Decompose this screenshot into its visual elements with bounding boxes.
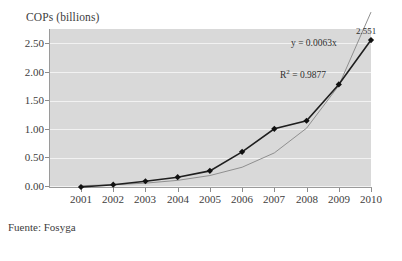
y-tick-label: 2.50 <box>10 37 44 49</box>
x-tick-mark <box>339 188 340 192</box>
x-tick-label: 2010 <box>360 193 382 205</box>
trendline-equation-label: y = 0.0063x <box>291 38 337 48</box>
plot-area <box>49 29 371 187</box>
y-tick-label: 2.00 <box>10 66 44 78</box>
chart-figure: COPs (billions) 2.50 2.00 1.50 1.00 0.50… <box>0 0 402 261</box>
x-axis-tick-labels: 2001 2002 2003 2004 2005 2006 2007 2008 … <box>0 193 402 211</box>
source-note: Fuente: Fosyga <box>8 221 76 233</box>
y-tick-label: 1.50 <box>10 94 44 106</box>
x-tick-label: 2004 <box>167 193 189 205</box>
x-tick-mark <box>178 188 179 192</box>
x-tick-label: 2006 <box>231 193 253 205</box>
gridline <box>49 158 371 159</box>
y-tick-mark <box>45 43 49 44</box>
x-tick-label: 2007 <box>263 193 285 205</box>
r-squared-label: R2 = 0.9877 <box>280 68 326 80</box>
x-tick-label: 2003 <box>134 193 156 205</box>
x-tick-label: 2001 <box>70 193 92 205</box>
y-tick-mark <box>45 129 49 130</box>
x-tick-label: 2009 <box>328 193 350 205</box>
y-tick-mark <box>45 72 49 73</box>
x-tick-label: 2008 <box>296 193 318 205</box>
x-tick-mark <box>371 188 372 192</box>
x-tick-mark <box>307 188 308 192</box>
x-tick-mark <box>274 188 275 192</box>
x-tick-mark <box>242 188 243 192</box>
x-tick-mark <box>145 188 146 192</box>
y-tick-label: 1.00 <box>10 123 44 135</box>
x-tick-mark <box>210 188 211 192</box>
x-tick-label: 2005 <box>199 193 221 205</box>
gridline <box>49 101 371 102</box>
y-tick-label: 0.00 <box>10 180 44 192</box>
x-tick-mark <box>113 188 114 192</box>
y-tick-label: 0.50 <box>10 151 44 163</box>
y-tick-mark <box>45 157 49 158</box>
gridline <box>49 129 371 130</box>
x-tick-label: 2002 <box>102 193 124 205</box>
y-axis-line <box>49 29 50 188</box>
r-squared-value: = 0.9877 <box>290 70 326 80</box>
last-point-value-label: 2.551 <box>356 26 376 36</box>
y-tick-mark <box>45 186 49 187</box>
y-tick-mark <box>45 100 49 101</box>
x-tick-mark <box>81 188 82 192</box>
